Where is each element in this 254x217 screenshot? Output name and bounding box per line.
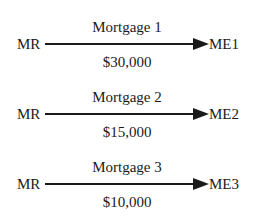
arrow-right-icon (45, 107, 209, 121)
edge-amount: $30,000 (0, 54, 254, 71)
mortgage-edge-3: Mortgage 3 MR ME3 $10,000 (0, 157, 254, 217)
edge-title: Mortgage 3 (0, 159, 254, 176)
edge-title: Mortgage 2 (0, 89, 254, 106)
edge-amount: $10,000 (0, 194, 254, 211)
source-node: MR (17, 176, 40, 193)
edge-amount: $15,000 (0, 124, 254, 141)
edge-title: Mortgage 1 (0, 19, 254, 36)
source-node: MR (17, 36, 40, 53)
target-node: ME3 (209, 176, 239, 193)
mortgage-edge-2: Mortgage 2 MR ME2 $15,000 (0, 87, 254, 157)
arrow-right-icon (45, 177, 209, 191)
target-node: ME1 (209, 36, 239, 53)
mortgage-edge-1: Mortgage 1 MR ME1 $30,000 (0, 17, 254, 87)
target-node: ME2 (209, 106, 239, 123)
arrow-right-icon (45, 37, 209, 51)
source-node: MR (17, 106, 40, 123)
